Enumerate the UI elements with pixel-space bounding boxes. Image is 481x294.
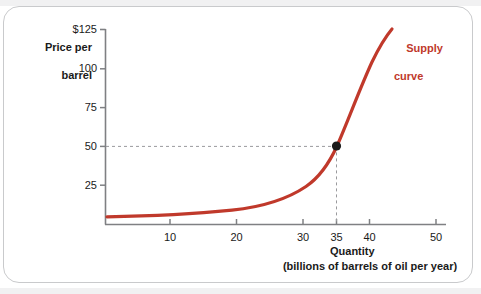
supply-curve-label-line1: Supply [406, 42, 443, 54]
figure-root: Price per barrel $125 100 75 50 25 10 20… [0, 0, 481, 294]
x-tick-label-40: 40 [350, 231, 390, 243]
x-tick-marks [170, 219, 436, 225]
y-tick-label-100: 100 [55, 62, 97, 74]
y-tick-label-75: 75 [55, 101, 97, 113]
x-tick-label-10: 10 [150, 231, 190, 243]
supply-curve-path [107, 29, 392, 217]
x-tick-label-20: 20 [217, 231, 257, 243]
equilibrium-point-marker [332, 141, 341, 150]
y-axis-title-line1: Price per [45, 41, 92, 53]
y-tick-label-25: 25 [55, 179, 97, 191]
supply-curve-label: Supply curve [394, 27, 464, 111]
x-axis-subtitle: (billions of barrels of oil per year) [272, 260, 468, 273]
y-tick-label-125: $125 [55, 23, 97, 35]
x-tick-label-50: 50 [416, 231, 456, 243]
supply-curve-label-line2: curve [394, 69, 464, 83]
x-axis-title: Quantity [330, 245, 450, 258]
y-tick-label-50: 50 [55, 140, 97, 152]
y-tick-marks [100, 69, 106, 185]
